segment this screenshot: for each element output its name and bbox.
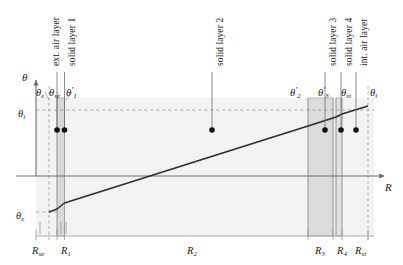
Rsi-sub: si: [361, 250, 366, 258]
dot-ext-air-layer: [54, 127, 60, 133]
figure-canvas: ext. air layer solid layer 1 solid layer…: [0, 0, 403, 265]
resistance-label-Rsi: Rsi: [355, 241, 366, 258]
theta-2-prime-node: θ′2: [290, 83, 301, 100]
label-ext-air-layer: ext. air layer: [52, 17, 62, 66]
x-axis-label: R: [385, 182, 392, 193]
label-solid-layer-4: solid layer 4: [345, 18, 355, 66]
Rse-sub: se: [38, 250, 44, 258]
theta-2p-sub: 2: [297, 92, 301, 100]
band-solid-layer-1: [57, 98, 65, 236]
dot-solid-layer-1: [62, 127, 68, 133]
theta-1-prime-node: θ′1: [66, 83, 77, 100]
theta-se-sub: se: [54, 92, 60, 100]
theta-i-sub: i: [375, 92, 377, 100]
label-int-air-layer: int. air layer: [360, 18, 370, 66]
y-tick-theta-e-sub: e: [21, 215, 24, 223]
theta-i-node: θi: [370, 83, 377, 100]
resistance-label-Rse: Rse: [32, 241, 44, 258]
y-axis-label: θ: [22, 72, 27, 83]
R1-sub: 1: [67, 250, 71, 258]
theta-se-node: θse: [49, 83, 60, 100]
dot-solid-layer-2: [209, 127, 215, 133]
resistance-label-R3: R3: [315, 241, 325, 258]
theta-1p-sub: 1: [73, 92, 77, 100]
theta-3-prime-node: θ′3: [318, 83, 329, 100]
y-tick-theta-e: θe: [16, 206, 24, 223]
R4-sub: 4: [343, 250, 347, 258]
theta-3p-sub: 3: [325, 92, 329, 100]
R2-sub: 2: [193, 250, 197, 258]
resistance-label-R2: R2: [187, 241, 197, 258]
resistance-label-R1: R1: [61, 241, 71, 258]
y-tick-theta-i-sub: i: [23, 113, 25, 121]
theta-e-node: θe: [36, 83, 44, 100]
label-solid-layer-2: solid layer 2: [216, 18, 226, 66]
dot-solid-layer-4: [338, 127, 344, 133]
dot-solid-layer-3: [322, 127, 328, 133]
label-solid-layer-3: solid layer 3: [329, 18, 339, 66]
theta-si-node: θsi: [341, 83, 351, 100]
theta-si-sub: si: [346, 92, 351, 100]
R3-sub: 3: [321, 250, 325, 258]
resistance-label-R4: R4: [337, 241, 347, 258]
y-tick-theta-i: θi: [18, 104, 25, 121]
label-solid-layer-1: solid layer 1: [68, 18, 78, 66]
dot-int-air-layer: [353, 127, 359, 133]
theta-e-sub: e: [41, 92, 44, 100]
